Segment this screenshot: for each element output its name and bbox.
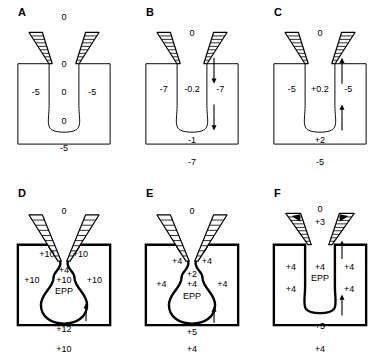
label-f-left-lower: +4 (286, 285, 296, 294)
label-a-right-inside: -5 (88, 88, 96, 97)
label-c-chamber-center: +2 (315, 136, 325, 145)
label-f-tip-value: +3 (315, 217, 325, 226)
panel-e: E0+4+4+2+4EPP+4+4+5+4 (128, 181, 256, 362)
label-e-bottom-outside: +4 (187, 345, 197, 354)
label-e-top-outside: 0 (189, 206, 194, 215)
panel-f: F0+3+4EPP+4+4+4+4+5+4 (256, 181, 384, 362)
label-d-bottom-outside: +10 (56, 345, 71, 354)
label-f-right-upper: +4 (344, 262, 354, 271)
label-f-left-upper: +4 (286, 262, 296, 271)
panel-d: D0+10+10+4+10EPP+10+10+12+10 (0, 181, 128, 362)
label-e-neck-left: +4 (172, 257, 182, 266)
label-e-center-mid: +4 (187, 280, 197, 289)
label-e-right-inside: +4 (217, 280, 227, 289)
label-a-slot-upper: 0 (61, 59, 66, 68)
label-d-top-outside: 0 (61, 206, 66, 215)
panel-b: B0-0.2-1-7-7-7 (128, 0, 256, 181)
label-a-left-inside: -5 (32, 88, 40, 97)
label-e-center-upper: +2 (187, 270, 197, 279)
label-d-center-upper: +4 (59, 265, 69, 274)
label-d-center-mid: +10 (56, 275, 71, 284)
label-a-chamber-center: 0 (61, 116, 66, 125)
label-e-neck-right: +4 (202, 257, 212, 266)
panel-c: C0+0.2+2-5-5-5 (256, 0, 384, 181)
label-d-neck-right: +10 (73, 249, 88, 258)
figure-container: A0000-5-5-5B0-0.2-1-7-7-7C0+0.2+2-5-5-5D… (0, 0, 385, 362)
label-b-left-inside: -7 (160, 84, 168, 93)
label-c-top-outside: 0 (317, 29, 322, 38)
label-d-chamber-center: +12 (56, 324, 71, 333)
label-e-center-epp: EPP (183, 291, 201, 300)
label-c-left-inside: -5 (288, 84, 296, 93)
label-f-center-mid: +4 (315, 262, 325, 271)
label-d-center-epp: EPP (55, 286, 73, 295)
label-b-top-outside: 0 (189, 29, 194, 38)
label-f-right-lower: +4 (344, 285, 354, 294)
label-d-right-inside: +10 (87, 275, 102, 284)
label-b-right-inside: -7 (216, 84, 224, 93)
label-c-right-inside: -5 (344, 84, 352, 93)
label-a-slot-mid: 0 (61, 88, 66, 97)
label-f-center-epp: EPP (311, 273, 329, 282)
panel-a: A0000-5-5-5 (0, 0, 128, 181)
label-d-left-inside: +10 (24, 275, 39, 284)
label-d-neck-left: +10 (39, 249, 54, 258)
label-c-bottom-outside: -5 (316, 157, 324, 166)
label-e-left-inside: +4 (156, 280, 166, 289)
label-b-bottom-outside: -7 (188, 157, 196, 166)
label-c-slot-mid: +0.2 (311, 84, 329, 93)
label-f-chamber-center: +5 (315, 321, 325, 330)
label-a-top-outside: 0 (61, 12, 66, 21)
label-f-bottom-outside: +4 (315, 345, 325, 354)
label-b-slot-mid: -0.2 (184, 84, 200, 93)
label-a-bottom-outside: -5 (60, 143, 68, 152)
label-f-top-outside: 0 (317, 204, 322, 213)
label-b-chamber-center: -1 (188, 136, 196, 145)
label-e-chamber-center: +5 (187, 327, 197, 336)
